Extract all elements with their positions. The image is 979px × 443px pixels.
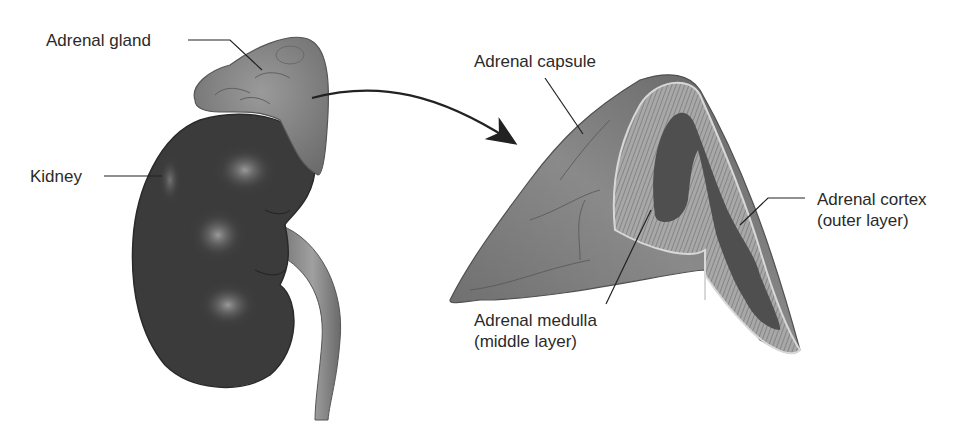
label-adrenal-cortex-line2: (outer layer) — [817, 210, 927, 231]
kidney — [132, 114, 315, 387]
label-adrenal-medulla-line2: (middle layer) — [474, 331, 597, 352]
label-adrenal-medulla-line1: Adrenal medulla — [474, 310, 597, 331]
label-adrenal-cortex-line1: Adrenal cortex — [817, 189, 927, 210]
label-adrenal-medulla: Adrenal medulla (middle layer) — [474, 310, 597, 352]
diagram-stage: Adrenal gland Kidney Adrenal capsule Adr… — [0, 0, 979, 443]
label-kidney: Kidney — [30, 166, 82, 187]
label-adrenal-cortex: Adrenal cortex (outer layer) — [817, 189, 927, 231]
leader-adrenal-capsule — [545, 78, 583, 134]
label-adrenal-gland: Adrenal gland — [46, 30, 151, 51]
label-adrenal-capsule: Adrenal capsule — [474, 51, 596, 72]
zoom-arrow — [312, 91, 510, 140]
